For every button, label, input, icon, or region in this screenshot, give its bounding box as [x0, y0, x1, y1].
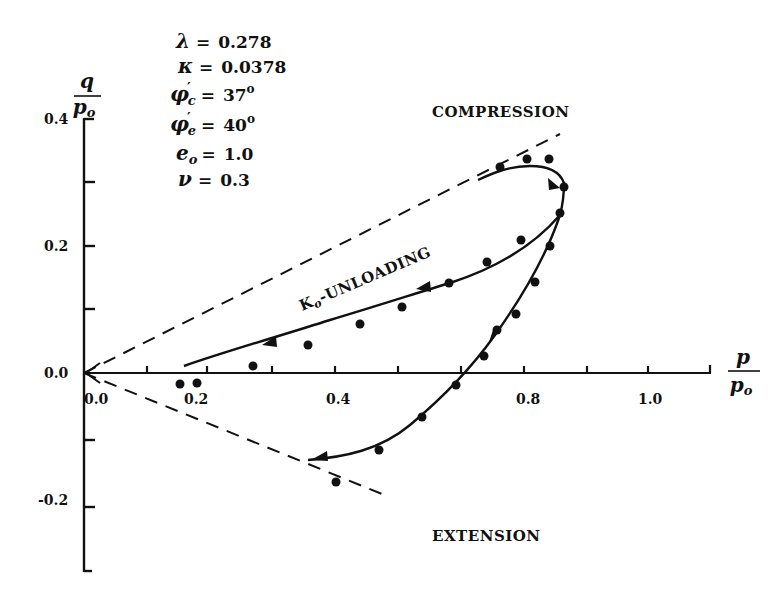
extension-arrow-icon-2: [311, 451, 328, 461]
compression-arrow-icon: [548, 178, 560, 190]
ko-unloading-arrow-icon-2: [416, 281, 431, 292]
svg-text:q: q: [80, 69, 94, 93]
extension-label: EXTENSION: [432, 527, 541, 545]
y-tick-labels: 0.4 0.2 0.0 -0.2: [38, 111, 69, 508]
x-tick-labels: 0.0 0.2 0.4 0.8 1.0: [84, 391, 663, 407]
svg-text:0.2: 0.2: [184, 391, 208, 407]
param-phi-e: φ′e=40o: [170, 110, 255, 138]
parameter-block: λ=0.278 κ=0.0378 φ′c=37o φ′e=40o eo=1.0 …: [170, 29, 286, 191]
svg-text:0.4: 0.4: [44, 111, 69, 127]
extension-path: [308, 215, 560, 460]
param-e0: eo=1.0: [176, 141, 253, 167]
svg-text:0.0: 0.0: [84, 391, 109, 407]
svg-text:po: po: [730, 373, 753, 398]
x-axis: [84, 365, 711, 373]
y-axis-label: q po: [73, 69, 101, 120]
param-phi-c: φ′c=37o: [170, 80, 255, 108]
svg-text:0.8: 0.8: [516, 391, 540, 407]
param-kappa: κ=0.0378: [177, 54, 286, 78]
ko-unloading-path: [184, 215, 560, 366]
svg-text:p: p: [736, 345, 750, 369]
param-nu: ν=0.3: [178, 167, 250, 191]
compression-label: COMPRESSION: [432, 103, 569, 121]
compression-failure-line: [84, 134, 560, 373]
ko-unloading-label: Ko-UNLOADING: [297, 243, 435, 317]
compression-path: [478, 166, 564, 215]
chart: λ=0.278 κ=0.0378 φ′c=37o φ′e=40o eo=1.0 …: [0, 0, 773, 606]
svg-text:po: po: [73, 95, 96, 120]
svg-text:-0.2: -0.2: [38, 492, 68, 508]
measured-data-points: [176, 155, 569, 487]
svg-text:0.4: 0.4: [326, 391, 351, 407]
svg-text:0.0: 0.0: [44, 365, 69, 381]
x-axis-label: p po: [728, 345, 760, 398]
svg-text:0.2: 0.2: [44, 238, 68, 254]
param-lambda: λ=0.278: [175, 29, 272, 53]
svg-text:1.0: 1.0: [638, 391, 663, 407]
y-axis: [84, 118, 95, 572]
